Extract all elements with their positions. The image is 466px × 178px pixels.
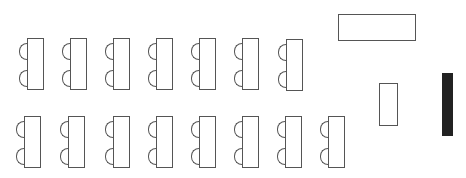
chair-icon (105, 70, 113, 87)
desk-unit (191, 38, 217, 92)
chair-icon (19, 70, 27, 87)
desk-unit (148, 38, 174, 92)
chair-icon (105, 148, 113, 165)
chair-icon (62, 43, 70, 60)
desk (70, 38, 87, 90)
chair-icon (105, 43, 113, 60)
desk-unit (277, 116, 303, 170)
chair-icon (191, 43, 199, 60)
desk (242, 116, 259, 168)
chair-icon (234, 148, 242, 165)
chair-icon (16, 148, 24, 165)
desk-unit (105, 116, 131, 170)
chair-icon (191, 121, 199, 138)
chair-icon (191, 148, 199, 165)
desk-unit (19, 38, 45, 92)
teacher-desk (338, 14, 416, 41)
desk (286, 39, 303, 91)
desk-unit (320, 116, 346, 170)
chair-icon (148, 70, 156, 87)
desk-unit (62, 38, 88, 92)
desk-unit (234, 116, 260, 170)
chair-icon (60, 121, 68, 138)
desk-unit (16, 116, 42, 170)
chair-icon (105, 121, 113, 138)
desk (199, 116, 216, 168)
chair-icon (320, 121, 328, 138)
chair-icon (234, 43, 242, 60)
lectern (379, 83, 398, 126)
chair-icon (148, 148, 156, 165)
desk (156, 38, 173, 90)
desk (27, 38, 44, 90)
chair-icon (320, 148, 328, 165)
chair-icon (148, 121, 156, 138)
desk-unit (105, 38, 131, 92)
classroom-layout-diagram (0, 0, 466, 178)
desk-unit (234, 38, 260, 92)
desk (285, 116, 302, 168)
chair-icon (60, 148, 68, 165)
chair-icon (278, 71, 286, 88)
desk-unit (191, 116, 217, 170)
desk-unit (148, 116, 174, 170)
chair-icon (19, 43, 27, 60)
desk (242, 38, 259, 90)
chair-icon (234, 70, 242, 87)
chair-icon (234, 121, 242, 138)
desk (68, 116, 85, 168)
desk (199, 38, 216, 90)
chair-icon (62, 70, 70, 87)
board (442, 73, 453, 136)
chair-icon (16, 121, 24, 138)
chair-icon (191, 70, 199, 87)
desk-unit (60, 116, 86, 170)
desk (113, 38, 130, 90)
chair-icon (278, 44, 286, 61)
desk (328, 116, 345, 168)
desk (156, 116, 173, 168)
chair-icon (148, 43, 156, 60)
desk (24, 116, 41, 168)
desk (113, 116, 130, 168)
chair-icon (277, 121, 285, 138)
desk-unit (278, 39, 304, 93)
chair-icon (277, 148, 285, 165)
